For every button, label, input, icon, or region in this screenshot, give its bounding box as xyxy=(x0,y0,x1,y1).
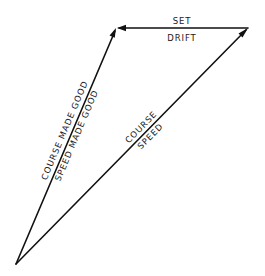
set-drift-vector: SET DRIFT xyxy=(117,16,248,43)
current-triangle-diagram: COURSE SPEED SET DRIFT COURSE MADE GOOD … xyxy=(0,0,265,276)
drift-label: DRIFT xyxy=(167,33,196,43)
course-speed-line xyxy=(16,30,246,264)
arrowhead-icon xyxy=(117,25,126,31)
arrowhead-icon xyxy=(110,28,117,38)
course-made-good-vector: COURSE MADE GOOD SPEED MADE GOOD xyxy=(16,28,116,264)
set-label: SET xyxy=(173,16,192,26)
course-speed-vector: COURSE SPEED xyxy=(16,28,248,264)
